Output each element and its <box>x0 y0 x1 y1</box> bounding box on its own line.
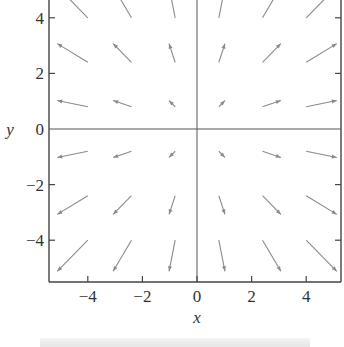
vector-arrow <box>169 151 175 157</box>
vector-arrow <box>263 151 281 158</box>
vector-arrow <box>219 151 225 157</box>
vector-arrow <box>219 0 226 18</box>
vector-arrow <box>113 151 131 158</box>
vector-arrow <box>57 240 88 271</box>
vector-arrow <box>219 101 225 107</box>
vector-arrow <box>57 100 88 107</box>
vector-arrow <box>57 0 88 18</box>
vector-arrow <box>263 196 281 215</box>
tick-labels: −4−2024420−2−4 <box>26 9 311 306</box>
vector-arrow <box>263 240 281 271</box>
vector-arrow <box>306 0 337 18</box>
vector-arrow <box>306 44 337 63</box>
vector-arrow <box>57 44 88 63</box>
vector-arrow <box>219 196 225 215</box>
vector-arrow <box>168 0 175 18</box>
y-tick-label: 2 <box>36 64 45 83</box>
vector-arrow <box>306 240 337 271</box>
vector-arrow <box>306 151 337 158</box>
y-axis-label: y <box>4 120 14 139</box>
vector-arrow <box>57 196 88 215</box>
y-tick-label: −4 <box>26 231 45 250</box>
vector-arrow <box>113 240 131 271</box>
vector-arrow <box>263 44 281 63</box>
vector-arrow <box>169 44 175 63</box>
x-tick-label: 0 <box>193 287 202 306</box>
vector-arrow <box>113 196 131 215</box>
vector-arrow <box>169 196 175 215</box>
vector-arrow <box>306 100 337 107</box>
vector-arrow <box>113 0 131 18</box>
y-tick-label: −2 <box>26 176 44 195</box>
plot-frame <box>49 0 341 282</box>
axis-ticks <box>49 18 341 282</box>
vector-arrow <box>219 44 225 63</box>
y-tick-label: 0 <box>36 120 45 139</box>
vector-arrow <box>169 101 175 107</box>
page-edge-shadow <box>40 338 310 347</box>
x-tick-label: 2 <box>247 287 256 306</box>
x-tick-label: −2 <box>133 287 151 306</box>
vector-arrow <box>263 0 281 18</box>
vector-arrow <box>219 240 226 271</box>
vector-arrow <box>263 100 281 107</box>
y-tick-label: 4 <box>36 9 45 28</box>
vector-field-plot: −4−2024420−2−4 x y <box>0 0 344 347</box>
vector-arrow <box>168 240 175 271</box>
vector-arrow <box>113 44 131 63</box>
x-tick-label: −4 <box>79 287 98 306</box>
vector-arrow <box>113 100 131 107</box>
zero-axes <box>49 0 341 282</box>
vector-arrow <box>306 196 337 215</box>
x-tick-label: 4 <box>302 287 311 306</box>
x-axis-label: x <box>192 308 201 327</box>
vector-arrow <box>57 151 88 158</box>
